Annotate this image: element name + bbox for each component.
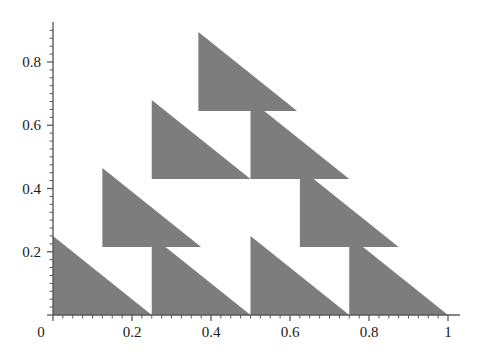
x-tick-label-0.4: 0.4 xyxy=(202,324,221,340)
y-tick-label-0.4: 0.4 xyxy=(22,181,41,197)
x-tick-label-1: 1 xyxy=(444,324,452,340)
x-tick-label-0.2: 0.2 xyxy=(123,324,142,340)
figure-canvas: 00.20.40.60.81 0.20.40.60.8 xyxy=(0,0,487,354)
fractal-plot: 00.20.40.60.81 0.20.40.60.8 xyxy=(0,0,487,354)
x-tick-label-0.8: 0.8 xyxy=(360,324,379,340)
y-tick-label-0.8: 0.8 xyxy=(22,54,41,70)
y-tick-label-0.6: 0.6 xyxy=(22,117,41,133)
x-tick-label-0.6: 0.6 xyxy=(281,324,300,340)
y-tick-label-0.2: 0.2 xyxy=(22,244,41,260)
x-tick-label-0: 0 xyxy=(37,324,45,340)
